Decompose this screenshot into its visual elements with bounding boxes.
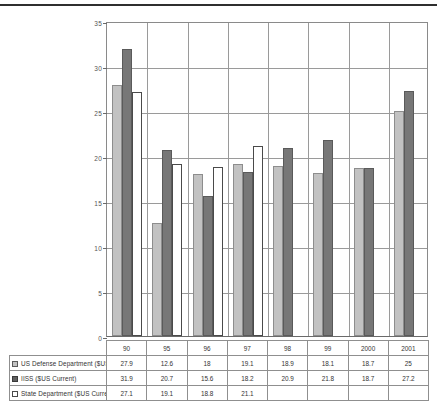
table-value-cell: 18.2 — [227, 371, 267, 386]
table-value-cell: 31.9 — [107, 371, 147, 386]
bar — [203, 196, 213, 336]
table-value-cell: 19.1 — [227, 356, 267, 371]
table-value-cell: 27.9 — [107, 356, 147, 371]
bar-group — [268, 23, 308, 336]
table-value-cell: 18 — [187, 356, 227, 371]
y-axis-tick-label: 5 — [98, 290, 102, 297]
chart-plot-area: 05101520253035 — [106, 22, 428, 337]
bar-group — [147, 23, 187, 336]
bar — [273, 166, 283, 336]
x-axis-category-label: 95 — [147, 341, 187, 356]
legend-swatch-icon — [12, 376, 18, 382]
bar — [283, 148, 293, 336]
bar — [162, 150, 172, 336]
table-header-row: 90959697989920002001 — [10, 341, 429, 356]
table-value-cell: 18.7 — [348, 371, 388, 386]
y-axis-tick-label: 25 — [94, 110, 102, 117]
legend-entry: IISS ($US Current) — [10, 371, 107, 386]
data-table: 90959697989920002001US Defense Departmen… — [9, 340, 429, 401]
table-value-cell — [388, 386, 428, 401]
table-value-cell: 20.7 — [147, 371, 187, 386]
table-row: IISS ($US Current)31.920.715.618.220.921… — [10, 371, 429, 386]
bar — [233, 164, 243, 336]
table-value-cell: 18.8 — [187, 386, 227, 401]
bar — [132, 92, 142, 336]
x-axis-category-label: 2001 — [388, 341, 428, 356]
y-axis-tick-mark — [103, 338, 107, 339]
y-axis-tick-label: 15 — [94, 200, 102, 207]
table-value-cell: 15.6 — [187, 371, 227, 386]
table-value-cell: 18.7 — [348, 356, 388, 371]
bar — [122, 49, 132, 336]
legend-swatch-icon — [12, 361, 18, 367]
bar — [394, 111, 404, 336]
legend-entry: US Defense Department ($US 2000) — [10, 356, 107, 371]
table-value-cell: 25 — [388, 356, 428, 371]
legend-label: IISS ($US Current) — [21, 375, 76, 382]
bar — [172, 164, 182, 336]
bar — [213, 167, 223, 336]
x-axis-category-label: 90 — [107, 341, 147, 356]
bar-group — [308, 23, 348, 336]
table-value-cell: 18.9 — [268, 356, 308, 371]
x-axis-category-label: 97 — [227, 341, 267, 356]
table-value-cell: 18.1 — [308, 356, 348, 371]
legend-entry: State Department ($US Current) — [10, 386, 107, 401]
bar — [404, 91, 414, 336]
table-value-cell: 21.8 — [308, 371, 348, 386]
table-value-cell: 21.1 — [227, 386, 267, 401]
bar — [354, 168, 364, 336]
bar — [313, 173, 323, 336]
bar-group — [228, 23, 268, 336]
legend-swatch-icon — [12, 391, 18, 397]
bar — [253, 146, 263, 336]
x-axis-category-label: 96 — [187, 341, 227, 356]
bar — [243, 172, 253, 336]
table-value-cell: 27.2 — [388, 371, 428, 386]
y-axis-tick-label: 20 — [94, 155, 102, 162]
y-axis-tick-label: 30 — [94, 65, 102, 72]
y-axis-tick-label: 35 — [94, 20, 102, 27]
bar-group — [389, 23, 429, 336]
top-divider-rule — [0, 4, 437, 6]
bar-group — [107, 23, 147, 336]
table-value-cell: 19.1 — [147, 386, 187, 401]
bar-group — [188, 23, 228, 336]
bar — [112, 85, 122, 336]
table-value-cell: 27.1 — [107, 386, 147, 401]
bar-chart: 05101520253035 — [95, 22, 428, 337]
y-axis-tick-label: 10 — [94, 245, 102, 252]
legend-label: State Department ($US Current) — [21, 390, 107, 397]
bar — [323, 140, 333, 336]
table-value-cell — [268, 386, 308, 401]
table-value-cell — [348, 386, 388, 401]
legend-label: US Defense Department ($US 2000) — [21, 360, 107, 367]
bar-group — [349, 23, 389, 336]
table-value-cell: 20.9 — [268, 371, 308, 386]
table-value-cell — [308, 386, 348, 401]
x-axis-category-label: 2000 — [348, 341, 388, 356]
x-axis-category-label: 99 — [308, 341, 348, 356]
table-corner-cell — [10, 341, 107, 356]
bar — [364, 168, 374, 336]
table-row: US Defense Department ($US 2000)27.912.6… — [10, 356, 429, 371]
bar — [152, 223, 162, 336]
bar — [193, 174, 203, 336]
chart-data-table: 90959697989920002001US Defense Departmen… — [9, 340, 428, 401]
table-row: State Department ($US Current)27.119.118… — [10, 386, 429, 401]
x-axis-category-label: 98 — [268, 341, 308, 356]
table-value-cell: 12.6 — [147, 356, 187, 371]
